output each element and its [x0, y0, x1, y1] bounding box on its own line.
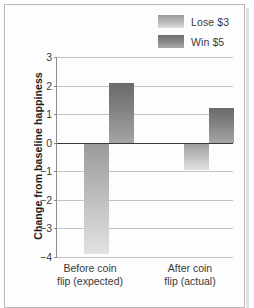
- legend-swatch-lose-icon: [158, 15, 184, 28]
- y-tick-label: 0: [46, 137, 52, 149]
- y-tick-mark: [54, 257, 57, 258]
- y-tick-label: 2: [46, 80, 52, 92]
- y-tick-mark: [54, 114, 57, 115]
- bar-win-before: [109, 83, 134, 143]
- y-tick-label: −3: [40, 222, 52, 234]
- x-axis-label-before: Before coin flip (expected): [52, 262, 128, 287]
- bar-lose-after: [184, 143, 209, 170]
- bar-win-after: [209, 108, 234, 142]
- y-tick-mark: [54, 200, 57, 201]
- zero-baseline: [57, 143, 233, 144]
- gridline: [57, 86, 233, 87]
- y-tick-label: −4: [40, 251, 52, 263]
- legend-item-win: Win $5: [158, 33, 242, 50]
- y-tick-label: 1: [46, 108, 52, 120]
- gridline: [57, 114, 233, 115]
- legend-label-lose: Lose $3: [191, 16, 229, 28]
- legend-label-win: Win $5: [191, 36, 224, 48]
- figure-frame-shadow: [246, 8, 249, 308]
- y-tick-mark: [54, 86, 57, 87]
- y-tick-label: −1: [40, 165, 52, 177]
- legend-item-lose: Lose $3: [158, 13, 242, 30]
- gridline: [57, 257, 233, 258]
- chart-legend: Lose $3 Win $5: [158, 13, 242, 53]
- y-tick-label: −2: [40, 194, 52, 206]
- x-axis-label-after: After coin flip (actual): [152, 262, 228, 287]
- y-tick-label: 3: [46, 51, 52, 63]
- plot-area: 3210−1−2−3−4: [56, 57, 233, 257]
- bar-lose-before: [84, 143, 109, 254]
- legend-swatch-win-icon: [158, 35, 184, 48]
- y-tick-mark: [54, 57, 57, 58]
- y-tick-mark: [54, 228, 57, 229]
- y-tick-mark: [54, 171, 57, 172]
- gridline: [57, 57, 233, 58]
